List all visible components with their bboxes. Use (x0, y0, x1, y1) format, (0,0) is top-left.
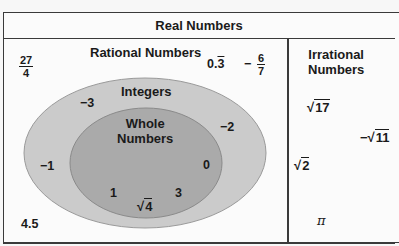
denominator: 7 (257, 65, 265, 77)
fraction-27-4: 27 4 (19, 54, 33, 79)
sqrt-4: √4 (137, 199, 152, 214)
whole-3: 3 (175, 186, 182, 200)
integers-label: Integers (121, 84, 172, 99)
pi-symbol: π (317, 213, 326, 228)
irrational-label-line1: Irrational (308, 47, 364, 62)
whole-1: 1 (110, 186, 117, 200)
denominator: 4 (19, 67, 33, 79)
numerator: 27 (19, 54, 33, 67)
repeating-whole: 0. (207, 57, 217, 71)
radicand: 17 (314, 99, 329, 115)
fraction-6-7: 6 7 (257, 52, 265, 77)
sqrt-17: √17 (307, 100, 330, 115)
neg-sign: − (360, 130, 368, 145)
integer-neg1: −1 (40, 159, 54, 173)
irrational-label-line2: Numbers (308, 62, 364, 77)
radicand: 2 (301, 157, 309, 173)
rational-numbers-label: Rational Numbers (90, 45, 201, 60)
numerator: 6 (257, 52, 265, 65)
decimal-4-5: 4.5 (21, 217, 38, 231)
radicand: 4 (144, 198, 152, 214)
radical-icon: √ (368, 130, 375, 145)
whole-0: 0 (203, 158, 210, 172)
irrational-numbers-label: Irrational Numbers (308, 47, 364, 77)
integer-neg3: −3 (80, 96, 94, 110)
sqrt-2: √2 (294, 158, 309, 173)
repeating-decimal: 0.3 (207, 57, 224, 71)
neg-sqrt-11: −√11 (360, 130, 389, 145)
whole-label-line1: Whole (117, 116, 173, 131)
radicand: 11 (375, 129, 390, 145)
repeating-digit: 3 (217, 57, 224, 71)
neg-sign: − (244, 57, 251, 71)
whole-label-line2: Numbers (117, 131, 173, 146)
whole-numbers-label: Whole Numbers (117, 116, 173, 146)
integer-neg2: −2 (220, 120, 234, 134)
